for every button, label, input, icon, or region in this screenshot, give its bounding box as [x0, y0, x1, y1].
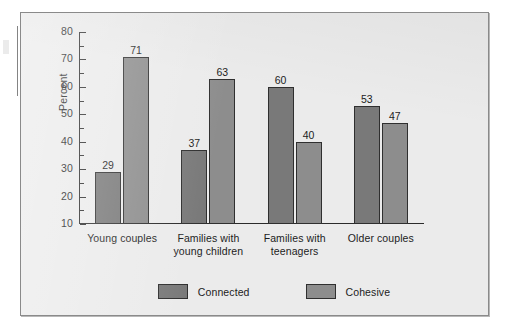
- y-tick-mark: [80, 142, 86, 143]
- scan-artifact-blob: [3, 40, 9, 54]
- y-tick-minor: [80, 46, 84, 47]
- scan-artifact-line: [17, 26, 18, 96]
- y-tick-major: 70: [79, 59, 86, 60]
- y-tick-minor: [80, 73, 84, 74]
- x-category-label: Older couples: [338, 232, 424, 245]
- y-tick-mark: [80, 87, 86, 88]
- y-tick-minor: [80, 183, 84, 184]
- bar-cohesive: 47: [382, 123, 408, 224]
- y-tick-label: 50: [61, 107, 73, 120]
- legend-item-cohesive: Cohesive: [306, 284, 391, 299]
- y-tick-major: 30: [79, 169, 86, 170]
- bar-value-label: 47: [389, 110, 401, 122]
- chart-legend: ConnectedCohesive: [79, 284, 469, 299]
- legend-swatch-cohesive: [306, 284, 336, 299]
- y-tick-mark: [80, 224, 86, 225]
- y-tick-major: 60: [79, 87, 86, 88]
- y-tick-label: 60: [61, 80, 73, 93]
- bar-connected: 60: [268, 87, 294, 224]
- y-tick-mark: [80, 197, 86, 198]
- y-tick-major: 50: [79, 114, 86, 115]
- legend-label: Cohesive: [346, 286, 391, 298]
- y-tick-mark: [80, 32, 86, 33]
- y-tick-mark: [80, 59, 86, 60]
- y-tick-minor: [80, 101, 84, 102]
- y-tick-major: 10: [79, 224, 86, 225]
- y-tick-label: 10: [61, 217, 73, 230]
- y-tick-major: 40: [79, 142, 86, 143]
- legend-swatch-connected: [158, 284, 188, 299]
- bar-value-label: 71: [130, 44, 142, 56]
- bar-value-label: 53: [361, 93, 373, 105]
- y-tick-mark: [80, 169, 86, 170]
- x-category-label: Young couples: [79, 232, 165, 245]
- plot-area: 1020304050607080 2971376360405347 Young …: [79, 32, 469, 224]
- bar-connected: 53: [354, 106, 380, 224]
- y-tick-label: 20: [61, 190, 73, 203]
- bar-value-label: 37: [189, 137, 201, 149]
- chart-figure-frame: Percent 1020304050607080 297137636040534…: [20, 12, 489, 316]
- bar-cohesive: 40: [296, 142, 322, 224]
- y-tick-label: 70: [61, 52, 73, 65]
- bar-value-label: 40: [303, 129, 315, 141]
- x-category-label: Families with young children: [165, 232, 251, 258]
- legend-item-connected: Connected: [158, 284, 250, 299]
- bar-value-label: 60: [275, 74, 287, 86]
- bar-value-label: 63: [217, 66, 229, 78]
- y-tick-major: 20: [79, 197, 86, 198]
- y-tick-mark: [80, 114, 86, 115]
- bar-cohesive: 71: [123, 57, 149, 224]
- y-tick-label: 30: [61, 162, 73, 175]
- y-tick-minor: [80, 210, 84, 211]
- x-category-label: Families with teenagers: [252, 232, 338, 258]
- y-tick-label: 40: [61, 135, 73, 148]
- bar-value-label: 29: [102, 159, 114, 171]
- y-tick-major: 80: [79, 32, 86, 33]
- y-tick-minor: [80, 128, 84, 129]
- y-tick-minor: [80, 155, 84, 156]
- y-tick-label: 80: [61, 25, 73, 38]
- bar-connected: 37: [181, 150, 207, 224]
- legend-label: Connected: [198, 286, 250, 298]
- bar-connected: 29: [95, 172, 121, 224]
- bar-cohesive: 63: [209, 79, 235, 224]
